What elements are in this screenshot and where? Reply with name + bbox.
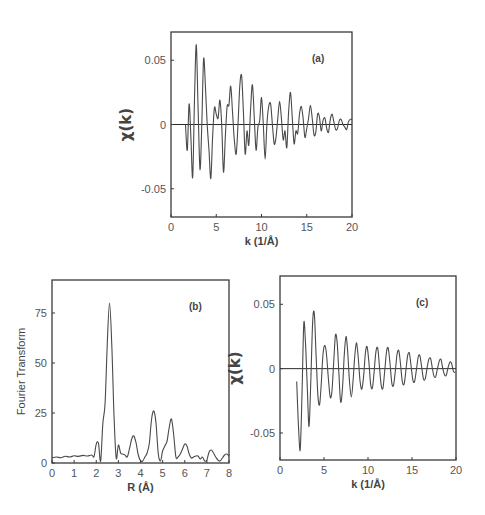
y-tick-label: 0.05 [145,54,166,66]
y-tick-label: 50 [35,357,47,369]
y-tick-label: -0.05 [250,427,275,439]
y-tick-label: -0.05 [141,183,166,195]
x-tick-label: 10 [255,221,267,233]
y-tick-label: 0 [160,119,166,131]
x-tick-label: 0 [49,467,55,479]
y-tick-label: 0 [269,363,275,375]
panel-a-chi-k-plot: 05101520-0.0500.05k (1/Å)χ(k)(a) [117,32,358,247]
x-tick-label: 20 [450,464,462,476]
x-tick-label: 15 [406,464,418,476]
x-tick-label: 5 [160,467,166,479]
x-tick-label: 20 [346,221,358,233]
x-tick-label: 5 [213,221,219,233]
x-tick-label: 0 [277,464,283,476]
x-tick-label: 5 [321,464,327,476]
x-tick-label: 15 [301,221,313,233]
y-axis-label: Fourier Transform [15,328,27,415]
x-tick-label: 10 [362,464,374,476]
x-tick-label: 3 [115,467,121,479]
panel-c-filtered-chi-k-plot: 05101520-0.0500.05k (1/Å)χ(k)(c) [226,276,462,490]
y-axis-label: χ(k) [226,351,244,384]
x-tick-label: 8 [226,467,232,479]
y-tick-label: 0 [41,457,47,469]
panel-label: (c) [416,297,428,308]
panel-label: (b) [189,301,202,312]
data-curve [297,311,455,451]
y-tick-label: 0.05 [254,298,275,310]
panel-label: (a) [312,53,324,64]
y-tick-label: 25 [35,407,47,419]
y-tick-label: 75 [35,307,47,319]
data-curve [186,45,353,179]
x-axis-label: R (Å) [127,481,154,493]
x-tick-label: 2 [93,467,99,479]
x-axis-label: k (1/Å) [245,235,279,247]
x-tick-label: 6 [182,467,188,479]
x-axis-label: k (1/Å) [351,478,385,490]
x-tick-label: 0 [168,221,174,233]
x-tick-label: 4 [137,467,143,479]
x-tick-label: 7 [204,467,210,479]
x-tick-label: 1 [71,467,77,479]
plot-frame [52,280,229,463]
exafs-figure: 05101520-0.0500.05k (1/Å)χ(k)(a) 0123456… [0,0,485,515]
panel-b-fourier-transform-plot: 0123456780255075R (Å)Fourier Transform(b… [15,280,232,493]
data-curve [52,303,229,461]
y-axis-label: χ(k) [117,108,135,141]
